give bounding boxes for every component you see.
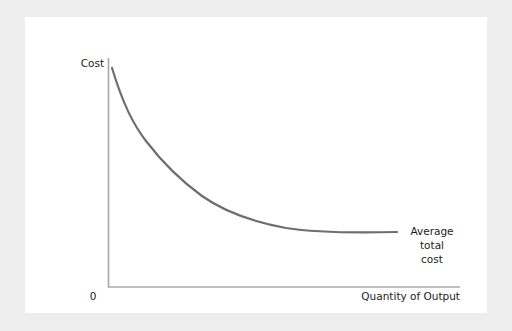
y-axis-title: Cost [60, 57, 104, 69]
curve-annotation: Average total cost [402, 224, 462, 266]
curve-annotation-line-2: total [402, 238, 462, 252]
curve-annotation-line-3: cost [402, 252, 462, 266]
origin-label: 0 [86, 290, 100, 302]
average-total-cost-curve [112, 68, 397, 233]
chart-figure: Cost 0 Quantity of Output Average total … [0, 0, 512, 331]
curve-annotation-line-1: Average [402, 224, 462, 238]
plot-area [0, 0, 512, 331]
x-axis-title: Quantity of Output [330, 290, 460, 302]
